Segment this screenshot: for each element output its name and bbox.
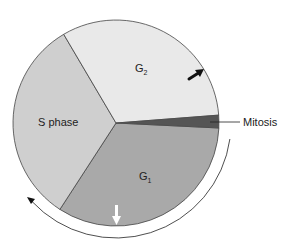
cell-cycle-pie-chart: Mitosis S phase G2 G1 xyxy=(0,0,286,249)
label-mitosis: Mitosis xyxy=(243,116,278,128)
label-s-phase: S phase xyxy=(38,116,78,128)
